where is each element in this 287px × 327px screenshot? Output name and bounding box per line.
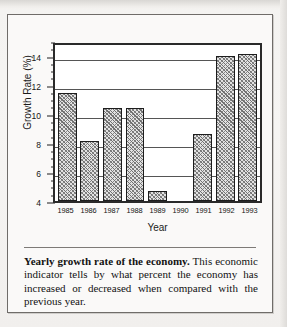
scan-top-shadow: [0, 0, 287, 9]
x-tick-label-1987: 1987: [100, 206, 123, 215]
caption-divider: [24, 247, 256, 248]
bar-1992[interactable]: [216, 56, 235, 201]
bar-1993[interactable]: [238, 54, 257, 201]
bar-slot-1993: [237, 45, 260, 201]
x-axis-tick-labels: 198519861987198819891990199119921993: [53, 206, 262, 215]
x-axis-title: Year: [53, 222, 262, 233]
bar-series: [55, 45, 260, 201]
x-tick-label-1992: 1992: [215, 206, 238, 215]
bar-chart: Growth Rate (%) 468101214 19851986198719…: [8, 19, 274, 245]
bar-slot-1990: [169, 45, 192, 201]
x-tick-label-1985: 1985: [54, 206, 77, 215]
x-tick-label-1988: 1988: [123, 206, 146, 215]
x-tick-label-1989: 1989: [146, 206, 169, 215]
bar-1991[interactable]: [193, 134, 212, 201]
bar-slot-1992: [214, 45, 237, 201]
bar-1985[interactable]: [58, 93, 77, 201]
bar-slot-1986: [79, 45, 102, 201]
plot-area: [53, 43, 262, 203]
scan-right-shadow: [280, 0, 287, 327]
x-tick-label-1986: 1986: [77, 206, 100, 215]
bar-slot-1985: [56, 45, 79, 201]
y-tick-label-8: 8: [36, 140, 41, 150]
bar-1989[interactable]: [148, 191, 167, 201]
bar-slot-1987: [101, 45, 124, 201]
x-tick-label-1990: 1990: [169, 206, 192, 215]
bar-slot-1989: [146, 45, 169, 201]
bar-1986[interactable]: [80, 141, 99, 201]
y-tick-label-12: 12: [32, 82, 41, 92]
figure-box: Growth Rate (%) 468101214 19851986198719…: [7, 14, 273, 313]
bar-1987[interactable]: [103, 108, 122, 201]
y-tick-label-4: 4: [36, 198, 41, 208]
y-tick-label-10: 10: [32, 111, 41, 121]
x-tick-label-1991: 1991: [192, 206, 215, 215]
y-tick-label-6: 6: [36, 169, 41, 179]
x-tick-label-1993: 1993: [238, 206, 261, 215]
caption-bold-lead: Yearly growth rate of the economy.: [24, 255, 190, 267]
figure-caption: Yearly growth rate of the economy. This …: [24, 255, 258, 309]
bar-slot-1991: [191, 45, 214, 201]
bar-1988[interactable]: [126, 108, 145, 201]
y-tick-label-14: 14: [32, 53, 41, 63]
bar-slot-1988: [124, 45, 147, 201]
